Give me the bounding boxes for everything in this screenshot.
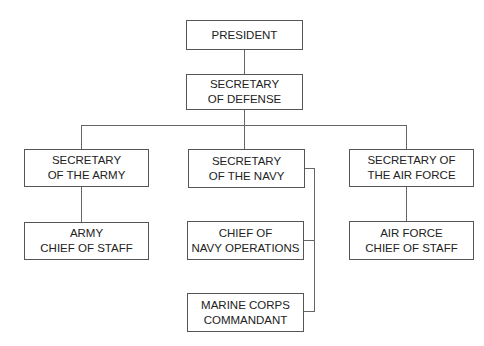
node-secretary-of-the-air-force: SECRETARY OF THE AIR FORCE bbox=[349, 149, 474, 187]
node-secretary-of-defense: SECRETARY OF DEFENSE bbox=[186, 74, 303, 110]
connector-to-airforce bbox=[406, 125, 407, 149]
node-president: PRESIDENT bbox=[186, 20, 303, 50]
connector-horizontal-bus bbox=[81, 125, 407, 126]
connector-navy-bracket-marine bbox=[303, 311, 315, 312]
connector-navy-bracket-cno bbox=[303, 240, 315, 241]
node-chief-of-navy-operations: CHIEF OF NAVY OPERATIONS bbox=[187, 221, 304, 260]
node-secretary-of-the-army: SECRETARY OF THE ARMY bbox=[24, 149, 149, 187]
connector-president-secdef bbox=[244, 49, 245, 74]
connector-secdef-down bbox=[244, 109, 245, 149]
node-secretary-of-the-navy: SECRETARY OF THE NAVY bbox=[188, 149, 305, 188]
connector-navy-bracket-top bbox=[304, 168, 315, 169]
node-air-force-chief-of-staff: AIR FORCE CHIEF OF STAFF bbox=[349, 221, 474, 260]
connector-to-army bbox=[81, 125, 82, 149]
node-marine-corps-commandant: MARINE CORPS COMMANDANT bbox=[187, 293, 304, 332]
node-army-chief-of-staff: ARMY CHIEF OF STAFF bbox=[24, 222, 149, 260]
connector-army-cos bbox=[81, 186, 82, 222]
connector-af-cos bbox=[406, 186, 407, 221]
